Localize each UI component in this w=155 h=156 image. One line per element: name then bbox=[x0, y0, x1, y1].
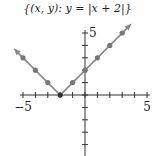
data-point bbox=[45, 80, 50, 85]
data-point bbox=[20, 55, 25, 60]
data-point bbox=[82, 68, 87, 73]
x-tick-label-max: 5 bbox=[143, 100, 151, 114]
data-point bbox=[70, 80, 75, 85]
data-point bbox=[95, 55, 100, 60]
data-point bbox=[120, 30, 125, 35]
vertex-point bbox=[58, 92, 63, 97]
data-point bbox=[107, 43, 112, 48]
plot-area: −555−5 bbox=[0, 0, 155, 156]
x-tick-label-min: −5 bbox=[14, 100, 32, 114]
data-point bbox=[33, 68, 38, 73]
y-tick-label-max: 5 bbox=[89, 26, 97, 40]
